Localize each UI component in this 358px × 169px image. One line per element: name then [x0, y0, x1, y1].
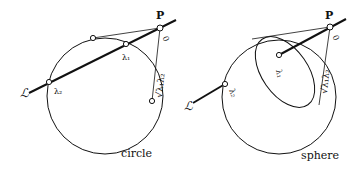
point-lambda1	[123, 41, 128, 46]
point-p	[157, 25, 163, 31]
tangent-point-right	[149, 98, 154, 103]
label-lambda2: λ₂	[227, 88, 238, 99]
label-line-l: ℒ	[20, 86, 29, 100]
diagram-canvas: P 0 ℒ λ₁ λ₂ √λ₁λ₂ circle P 0 ℒ λ₁ λ₂ √λ₁…	[0, 0, 358, 169]
point-lambda1	[276, 52, 281, 57]
caption-circle: circle	[121, 147, 152, 160]
line-l-outer	[193, 84, 225, 103]
label-p: P	[156, 9, 164, 22]
circle-figure: P 0 ℒ λ₁ λ₂ √λ₁λ₂ circle	[20, 9, 176, 160]
label-origin: 0	[331, 34, 341, 42]
tangent-point-upper	[90, 35, 95, 40]
label-line-l: ℒ	[184, 99, 193, 113]
label-tangent-length: √λ₁λ₂	[154, 73, 167, 99]
label-origin: 0	[161, 35, 171, 43]
label-lambda2: λ₂	[54, 87, 62, 96]
sphere-figure: P 0 ℒ λ₁ λ₂ √λ₁λ₂ sphere	[184, 9, 346, 162]
label-tangent-length: √λ₁λ₂	[319, 69, 332, 95]
point-lambda2	[222, 81, 227, 86]
label-p: P	[325, 9, 333, 22]
point-p	[327, 24, 333, 30]
label-lambda1: λ₁	[122, 53, 130, 62]
label-lambda1: λ₁	[274, 69, 284, 79]
point-lambda2	[46, 79, 51, 84]
caption-sphere: sphere	[301, 149, 339, 162]
